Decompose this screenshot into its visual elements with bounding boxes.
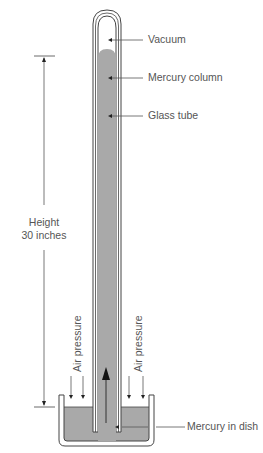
- air-pressure-arrows-right: [129, 376, 143, 396]
- air-pressure-arrows-left: [71, 376, 83, 396]
- label-air-pressure-left: Air pressure: [71, 315, 83, 372]
- label-air-pressure-right: Air pressure: [132, 315, 144, 372]
- label-mercury-column: Mercury column: [148, 71, 223, 83]
- height-arrow-down-icon: [42, 401, 46, 406]
- label-glass-tube: Glass tube: [148, 109, 198, 121]
- label-mercury-in-dish: Mercury in dish: [187, 420, 258, 432]
- label-vacuum: Vacuum: [148, 33, 186, 45]
- mercury-column: [98, 49, 116, 441]
- height-arrow-up-icon: [42, 57, 46, 62]
- label-height: Height 30 inches: [4, 216, 84, 242]
